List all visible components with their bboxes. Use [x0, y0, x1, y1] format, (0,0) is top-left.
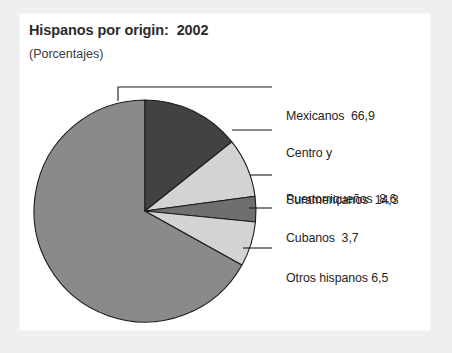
pie-slices: [34, 100, 256, 322]
pie-label-otros-hispanos-text: Otros hispanos 6,5: [286, 271, 388, 287]
figure-root: Hispanos por origin: 2002 (Porcentajes) …: [0, 0, 452, 353]
pie-label-centro-y-suramericanos-text-line1: Centro y: [286, 146, 398, 162]
leader-line-mexicanos: [118, 87, 272, 101]
pie-label-otros-hispanos: Otros hispanos 6,5: [286, 240, 388, 318]
